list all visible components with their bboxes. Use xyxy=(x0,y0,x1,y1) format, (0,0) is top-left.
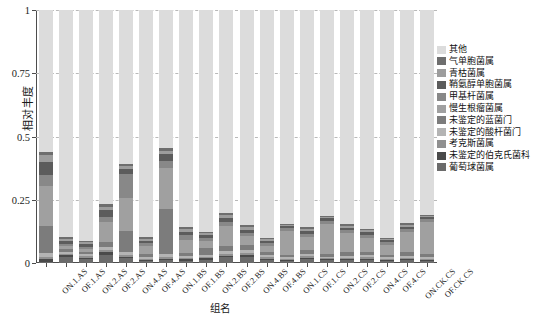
legend-swatch-icon xyxy=(437,105,446,113)
legend-swatch-icon xyxy=(437,140,446,148)
plot-area: 00.250.50.751 xyxy=(36,10,437,263)
legend-swatch-icon xyxy=(437,81,446,89)
bar-segment xyxy=(280,10,294,224)
legend-label: 未鉴定的蓝菌门 xyxy=(449,116,512,125)
legend-item[interactable]: 葡萄球菌属 xyxy=(437,162,552,173)
x-tick-mark xyxy=(247,263,248,267)
bar-segment xyxy=(139,246,153,254)
legend-item[interactable]: 未鉴定的蓝菌门 xyxy=(437,115,552,126)
bar[interactable] xyxy=(280,10,294,263)
x-tick-mark xyxy=(287,263,288,267)
bar-segment xyxy=(420,10,434,214)
bar[interactable] xyxy=(59,10,73,263)
legend-swatch-icon xyxy=(437,69,446,77)
stacked-bar-chart: 相对丰度 00.250.50.751 ON.1.ASOF.1.ASON.2.AS… xyxy=(0,0,552,317)
x-tick-mark xyxy=(46,263,47,267)
bar[interactable] xyxy=(199,10,213,263)
bar-segment xyxy=(199,241,213,248)
bar[interactable] xyxy=(159,10,173,263)
bar-segment xyxy=(240,236,254,245)
x-tick-mark xyxy=(367,263,368,267)
y-tick-label: 0.75 xyxy=(12,68,30,79)
bar[interactable] xyxy=(300,10,314,263)
bar-segment xyxy=(199,10,213,232)
y-tick-mark xyxy=(32,200,36,201)
bar[interactable] xyxy=(340,10,354,263)
bar-segment xyxy=(400,10,414,223)
legend-item[interactable]: 慢生根瘤菌属 xyxy=(437,103,552,114)
legend-label: 葡萄球菌属 xyxy=(449,163,494,172)
x-tick-mark xyxy=(146,263,147,267)
legend-label: 未鉴定的酸杆菌门 xyxy=(449,128,521,137)
legend-item[interactable]: 未鉴定的酸杆菌门 xyxy=(437,126,552,137)
bar-segment xyxy=(39,186,53,226)
legend-item[interactable]: 考克斯菌属 xyxy=(437,138,552,149)
x-tick-mark xyxy=(186,263,187,267)
bar-segment xyxy=(39,155,53,162)
legend-item[interactable]: 甲基杆菌属 xyxy=(437,91,552,102)
bar[interactable] xyxy=(320,10,334,263)
y-tick-label: 0.5 xyxy=(17,131,30,142)
bar[interactable] xyxy=(219,10,233,263)
y-tick-mark xyxy=(32,263,36,264)
y-tick-mark xyxy=(32,73,36,74)
y-tick-mark xyxy=(32,10,36,11)
bar-segment xyxy=(99,255,113,263)
legend-label: 青枯菌属 xyxy=(449,69,485,78)
legend-swatch-icon xyxy=(437,57,446,65)
bar-segment xyxy=(400,232,414,252)
gridline xyxy=(36,73,437,74)
bar-segment xyxy=(320,10,334,215)
bar-segment xyxy=(380,245,394,255)
legend-label: 鞘氨醇单胞菌属 xyxy=(449,80,512,89)
bar-segment xyxy=(179,10,193,227)
bar-segment xyxy=(240,10,254,225)
x-tick-mark xyxy=(307,263,308,267)
x-tick-mark xyxy=(206,263,207,267)
x-tick-mark xyxy=(427,263,428,267)
legend-swatch-icon xyxy=(437,93,446,101)
x-axis-line xyxy=(36,262,437,263)
bar[interactable] xyxy=(380,10,394,263)
bar[interactable] xyxy=(360,10,374,263)
bar[interactable] xyxy=(260,10,274,263)
gridline xyxy=(36,137,437,138)
x-axis-title: 组名 xyxy=(0,300,440,315)
bar[interactable] xyxy=(119,10,133,263)
bar-segment xyxy=(219,226,233,246)
legend-item[interactable]: 气单胞菌属 xyxy=(437,56,552,67)
y-tick-label: 0 xyxy=(25,258,30,269)
bar[interactable] xyxy=(420,10,434,263)
legend-label: 未鉴定的伯克氏菌科 xyxy=(449,151,530,160)
x-tick-mark xyxy=(387,263,388,267)
legend-swatch-icon xyxy=(437,116,446,124)
y-tick-label: 1 xyxy=(25,5,30,16)
x-tick-mark xyxy=(66,263,67,267)
bar[interactable] xyxy=(99,10,113,263)
x-tick-mark xyxy=(166,263,167,267)
bar-segment xyxy=(39,162,53,175)
x-tick-mark xyxy=(347,263,348,267)
bar[interactable] xyxy=(139,10,153,263)
bar[interactable] xyxy=(179,10,193,263)
bar-segment xyxy=(219,10,233,213)
bar[interactable] xyxy=(39,10,53,263)
legend-item[interactable]: 鞘氨醇单胞菌属 xyxy=(437,79,552,90)
bar[interactable] xyxy=(79,10,93,263)
bar-segment xyxy=(99,10,113,204)
bar[interactable] xyxy=(240,10,254,263)
bar[interactable] xyxy=(400,10,414,263)
bar-segment xyxy=(119,231,133,252)
bar-segment xyxy=(420,222,434,255)
x-tick-mark xyxy=(126,263,127,267)
bar-segment xyxy=(300,10,314,227)
bar-segment xyxy=(360,10,374,229)
x-tick-mark xyxy=(267,263,268,267)
legend-item[interactable]: 其他 xyxy=(437,44,552,55)
bar-segment xyxy=(119,10,133,164)
legend-item[interactable]: 青枯菌属 xyxy=(437,68,552,79)
bar-segment xyxy=(340,10,354,224)
legend-label: 考克斯菌属 xyxy=(449,139,494,148)
legend-item[interactable]: 未鉴定的伯克氏菌科 xyxy=(437,150,552,161)
x-tick-mark xyxy=(106,263,107,267)
